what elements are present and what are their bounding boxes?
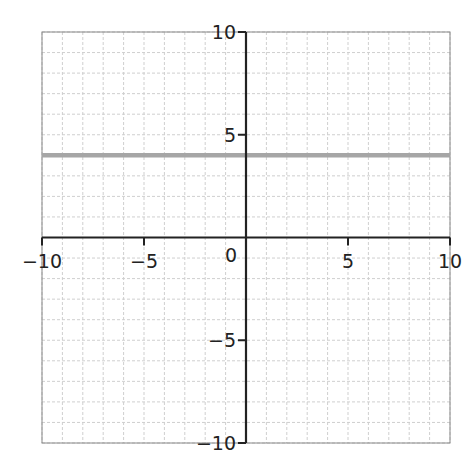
x-tick-label: −10 [22,250,62,272]
x-tick-label: 5 [342,250,354,272]
x-tick-label: −5 [130,250,158,272]
y-tick-label: −10 [196,432,236,454]
origin-label: 0 [225,244,237,266]
coordinate-plane: −10−55100−10−5510 [0,0,475,464]
x-tick-label: 10 [438,250,462,272]
y-tick-label: 10 [212,21,236,43]
y-tick-label: 5 [224,124,236,146]
y-tick-label: −5 [208,329,236,351]
